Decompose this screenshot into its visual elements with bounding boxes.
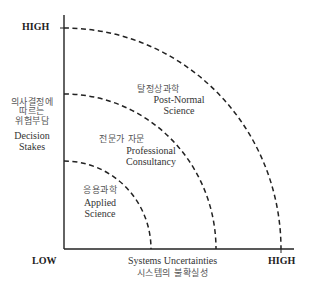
- professional-consultancy-boundary-arc: [64, 94, 216, 249]
- applied-science-en-line-2: Science: [70, 209, 130, 220]
- zone-applied-science-label: 응용과학 Applied Science: [70, 186, 130, 219]
- x-axis-high-label: HIGH: [268, 256, 295, 267]
- post-normal-science-ko-text: 탈정상과학: [137, 84, 180, 94]
- professional-consultancy-ko-text: 전문가 자문: [99, 134, 145, 144]
- x-axis-title-ko: 시스템의 불확실성: [115, 269, 230, 278]
- zone-professional-consultancy-label: Professional Consultancy: [115, 146, 187, 167]
- x-axis-title: Systems Uncertainties 시스템의 불확실성: [115, 256, 230, 278]
- post-normal-science-en-line-2: Science: [149, 106, 209, 117]
- y-axis-title: 의사결정에 따르는 위험부담 Decision Stakes: [4, 98, 60, 152]
- y-axis-title-en-line-2: Stakes: [4, 142, 60, 153]
- applied-science-ko: 응용과학: [70, 186, 130, 195]
- professional-consultancy-ko: 전문가 자문: [99, 129, 145, 146]
- y-axis-title-ko-line-3: 위험부담: [4, 117, 60, 126]
- zone-post-normal-science-label: Post-Normal Science: [149, 95, 209, 116]
- post-normal-science-en-line-1: Post-Normal: [149, 95, 209, 106]
- x-axis-low-label: LOW: [32, 256, 56, 267]
- professional-consultancy-en-line-2: Consultancy: [115, 157, 187, 168]
- post-normal-science-diagram: HIGH 의사결정에 따르는 위험부담 Decision Stakes LOW …: [0, 0, 309, 291]
- x-axis-title-en: Systems Uncertainties: [115, 256, 230, 267]
- professional-consultancy-en-line-1: Professional: [115, 146, 187, 157]
- y-axis-high-label: HIGH: [22, 22, 49, 33]
